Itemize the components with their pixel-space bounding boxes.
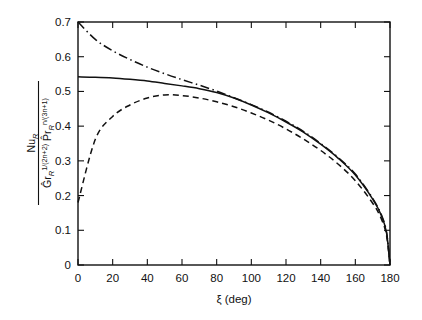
x-tick-label: 160 [346,272,365,284]
y-tick-label: 0.3 [55,155,71,167]
x-tick-label: 180 [380,272,399,284]
x-tick-label: 20 [106,272,119,284]
x-axis-title: ξ (deg) [216,293,251,305]
figure-container: 020406080100120140160180 00.10.20.30.40.… [0,0,422,320]
x-tick-label: 40 [141,272,154,284]
y-tick-label: 0.1 [55,224,71,236]
chart-svg: 020406080100120140160180 00.10.20.30.40.… [0,0,422,320]
x-tick-label: 120 [276,272,295,284]
x-tick-label: 60 [176,272,189,284]
y-tick-label: 0.6 [55,51,71,63]
x-tick-label: 80 [210,272,223,284]
y-tick-label: 0.4 [55,120,72,132]
x-tick-label: 140 [311,272,330,284]
x-tick-label: 100 [242,272,261,284]
y-tick-label: 0.2 [55,190,71,202]
y-tick-label: 0.7 [55,16,71,28]
y-tick-label: 0 [65,259,71,271]
x-tick-label: 0 [75,272,81,284]
y-tick-label: 0.5 [55,85,71,97]
